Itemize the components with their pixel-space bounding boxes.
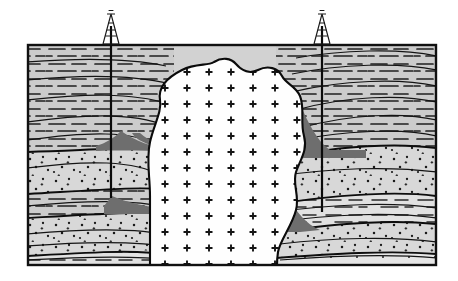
salt-dome-intrusion bbox=[148, 59, 305, 265]
figure-canvas bbox=[0, 0, 458, 281]
intrusion-plus-fill bbox=[148, 59, 305, 265]
geological-cross-section-svg bbox=[0, 0, 458, 281]
